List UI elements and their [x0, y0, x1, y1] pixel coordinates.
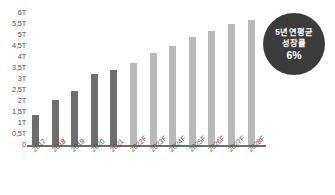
y-axis-tick-label: 3T [0, 75, 26, 83]
y-axis-tick-label: 5T [0, 31, 26, 39]
cagr-callout-badge: 5년 연평균 성장률 6% [263, 13, 325, 75]
bar [248, 20, 255, 145]
y-axis-tick-label: 1,5T [0, 108, 26, 116]
badge-value: 6% [286, 50, 301, 61]
badge-line-2: 성장률 [282, 38, 305, 49]
y-axis-tick-label: 1T [0, 119, 26, 127]
bar [71, 91, 78, 145]
y-axis: 6T5,5T5T4,5T4T3,5T3T2,5T2T1,5T1T0,5T0 [0, 0, 26, 195]
y-axis-tick-label: 0 [0, 141, 26, 149]
bar [130, 63, 137, 146]
y-axis-tick-label: 4T [0, 53, 26, 61]
chart-container: 6T5,5T5T4,5T4T3,5T3T2,5T2T1,5T1T0,5T0 20… [0, 0, 335, 195]
y-axis-tick-label: 2T [0, 97, 26, 105]
bar [150, 53, 157, 145]
bar [52, 100, 59, 145]
y-axis-tick-label: 5,5T [0, 20, 26, 28]
bar [228, 24, 235, 145]
bar [208, 31, 215, 145]
bar [91, 74, 98, 146]
bars-layer [27, 0, 266, 145]
bar [110, 70, 117, 145]
bar [189, 37, 196, 145]
badge-line-1: 5년 연평균 [275, 27, 313, 38]
y-axis-tick-label: 0,5T [0, 130, 26, 138]
bar [169, 46, 176, 145]
x-axis-labels: 201720182019202020212022F2023F2024F2025F… [27, 147, 287, 187]
y-axis-tick-label: 6T [0, 9, 26, 17]
y-axis-tick-label: 3,5T [0, 64, 26, 72]
y-axis-tick-label: 2,5T [0, 86, 26, 94]
y-axis-tick-label: 4,5T [0, 42, 26, 50]
